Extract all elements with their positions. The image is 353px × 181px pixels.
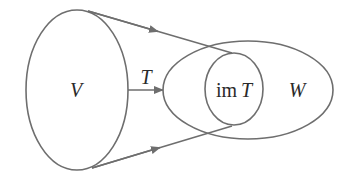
top-arrow-icon — [88, 11, 158, 32]
domain-label: V — [70, 79, 85, 101]
image-label: imT — [216, 79, 254, 101]
linear-map-diagram: V T imT W — [0, 0, 353, 181]
codomain-label: W — [289, 79, 308, 101]
map-label: T — [140, 66, 153, 88]
bottom-arrow-icon — [92, 148, 160, 169]
